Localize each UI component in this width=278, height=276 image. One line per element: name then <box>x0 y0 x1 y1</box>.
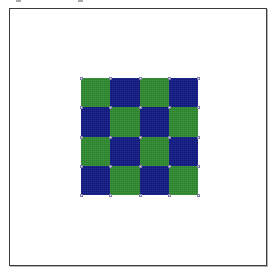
selection-handle-r0-c3[interactable] <box>168 77 171 80</box>
checkerboard-cell-r1-c0[interactable] <box>81 107 110 136</box>
checkerboard-cell-r0-c3[interactable] <box>169 78 198 107</box>
selection-handle-r3-c1[interactable] <box>109 165 112 168</box>
selection-handle-r1-c3[interactable] <box>168 106 171 109</box>
selection-handle-r3-c2[interactable] <box>139 165 142 168</box>
drawing-canvas[interactable] <box>9 8 267 266</box>
selection-handle-r2-c4[interactable] <box>197 136 200 139</box>
selection-handle-r0-c0[interactable] <box>80 77 83 80</box>
selection-handle-r1-c4[interactable] <box>197 106 200 109</box>
checkerboard-cell-r1-c2[interactable] <box>140 107 169 136</box>
clipped-glyph-fragment-right <box>78 0 83 2</box>
selection-handle-r0-c1[interactable] <box>109 77 112 80</box>
checkerboard-cell-r2-c1[interactable] <box>110 137 139 166</box>
checkerboard-cell-r0-c0[interactable] <box>81 78 110 107</box>
selection-handle-r3-c3[interactable] <box>168 165 171 168</box>
app-root <box>0 0 278 276</box>
selection-handle-r4-c0[interactable] <box>80 194 83 197</box>
checkerboard-cell-r1-c1[interactable] <box>110 107 139 136</box>
checkerboard-cell-r2-c0[interactable] <box>81 137 110 166</box>
selection-handle-r1-c2[interactable] <box>139 106 142 109</box>
clipped-glyph-fragment-left <box>16 0 21 2</box>
selection-handle-r4-c3[interactable] <box>168 194 171 197</box>
checkerboard-cell-r3-c1[interactable] <box>110 166 139 195</box>
selection-handle-r2-c3[interactable] <box>168 136 171 139</box>
checkerboard-cell-r0-c1[interactable] <box>110 78 139 107</box>
checkerboard-cell-r1-c3[interactable] <box>169 107 198 136</box>
checkerboard-cell-r0-c2[interactable] <box>140 78 169 107</box>
selection-handle-r4-c2[interactable] <box>139 194 142 197</box>
selection-handle-r3-c0[interactable] <box>80 165 83 168</box>
selection-handle-r2-c0[interactable] <box>80 136 83 139</box>
selection-handle-r1-c0[interactable] <box>80 106 83 109</box>
checkerboard-cell-r2-c3[interactable] <box>169 137 198 166</box>
checkerboard-cell-r3-c0[interactable] <box>81 166 110 195</box>
selection-handle-r2-c2[interactable] <box>139 136 142 139</box>
selection-handle-r2-c1[interactable] <box>109 136 112 139</box>
selection-handle-r3-c4[interactable] <box>197 165 200 168</box>
selection-handle-r0-c2[interactable] <box>139 77 142 80</box>
selection-handle-r0-c4[interactable] <box>197 77 200 80</box>
checkerboard-cell-r3-c2[interactable] <box>140 166 169 195</box>
selection-handle-r1-c1[interactable] <box>109 106 112 109</box>
checkerboard-cell-r2-c2[interactable] <box>140 137 169 166</box>
selection-handle-r4-c1[interactable] <box>109 194 112 197</box>
checkerboard-cell-r3-c3[interactable] <box>169 166 198 195</box>
selection-handle-r4-c4[interactable] <box>197 194 200 197</box>
